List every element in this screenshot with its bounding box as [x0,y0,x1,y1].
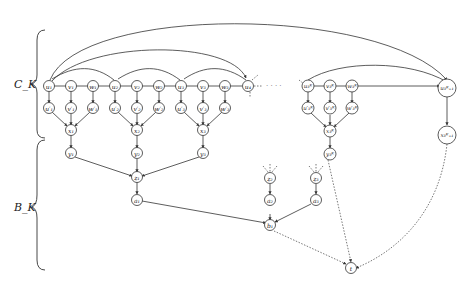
node-u1p: u′₁ [44,103,55,114]
svg-text:v′₂: v′₂ [133,105,141,112]
node-y3K: y₃ᴷ [324,148,336,160]
node-u3: u₃ [176,81,187,92]
svg-text:y₃ᴷ: y₃ᴷ [325,151,334,158]
node-v2p: v′₂ [132,103,143,114]
node-v1: v₁ [66,81,77,92]
svg-text:u′₃ᴷ: u′₃ᴷ [303,105,313,111]
node-x3K1: x₃ᴷ₊₁ [438,126,456,144]
node-z1: z₁ [132,172,143,183]
label-bk: B_K [13,201,37,214]
node-v3K: v₃ᴷ [324,80,336,92]
node-v1p: v′₁ [66,103,77,114]
svg-text:y₂: y₂ [133,150,140,158]
node-v3Kp: v′₃ᴷ [324,102,336,114]
svg-text:w′₃: w′₃ [221,105,230,112]
svg-text:x₃ᴷ: x₃ᴷ [326,128,334,134]
svg-text:u′₁: u′₁ [45,105,53,112]
node-w2p: w′₂ [154,103,165,114]
node-w1: w₁ [88,81,99,92]
node-t: t [346,263,357,274]
svg-text:v′₃: v′₃ [199,105,207,112]
node-z2: z₂ [265,173,276,184]
svg-text:z₁: z₁ [133,174,140,181]
svg-text:x₃ᴷ₊₁: x₃ᴷ₊₁ [440,132,453,138]
svg-text:w′₃ᴷ: w′₃ᴷ [347,105,358,111]
label-ck: C_K [14,78,37,91]
node-w1p: w′₁ [88,103,99,114]
node-y3: y₃ [198,148,209,159]
node-u2p: u′₂ [110,103,121,114]
node-x3: x₃ [198,125,209,136]
graph-diagram: C_K B_K · · · · [0,0,476,286]
svg-text:u₁: u₁ [46,83,52,90]
node-y2: y₂ [132,148,143,159]
node-w3: w₃ [220,81,231,92]
svg-text:x₃: x₃ [200,127,206,134]
node-v3p: v′₃ [198,103,209,114]
svg-text:w₁: w₁ [89,83,97,90]
svg-text:u₄: u₄ [245,83,252,90]
node-u4: u₄ [243,81,254,92]
svg-text:u₃ᴷ: u₃ᴷ [304,83,313,89]
svg-text:v₂: v₂ [134,83,140,90]
ellipsis: · · · · [266,82,282,90]
node-y1: y₁ [66,148,77,159]
svg-text:a₃: a₃ [313,197,320,204]
svg-text:b₁: b₁ [267,222,273,229]
svg-text:u′₃: u′₃ [177,105,185,112]
svg-text:z₃: z₃ [312,175,319,182]
node-w3K: w₃ᴷ [346,80,358,92]
node-a1: a₁ [132,195,143,206]
svg-text:y₃: y₃ [199,150,206,158]
svg-text:v′₃ᴷ: v′₃ᴷ [325,105,335,111]
svg-text:z₂: z₂ [266,175,273,182]
node-u1: u₁ [44,81,55,92]
svg-text:v₃ᴷ: v₃ᴷ [326,83,334,89]
node-u3Kp: u′₃ᴷ [302,102,314,114]
svg-text:u₃: u₃ [178,83,185,90]
node-x3K: x₃ᴷ [324,125,336,137]
node-u3p: u′₃ [176,103,187,114]
svg-text:v₃: v₃ [200,83,206,90]
node-w2: w₂ [154,81,165,92]
svg-text:w₃: w₃ [221,83,229,90]
node-w3Kp: w′₃ᴷ [346,102,358,114]
svg-text:v₁: v₁ [68,83,74,90]
node-x1: x₁ [66,125,77,136]
svg-text:y₁: y₁ [67,150,74,158]
svg-text:w₃ᴷ: w₃ᴷ [347,83,357,89]
svg-text:v′₁: v′₁ [67,105,74,112]
node-u3K1: u₃ᴷ₊₁ [438,79,456,97]
svg-text:u′₂: u′₂ [111,105,119,112]
svg-text:w′₂: w′₂ [155,105,164,112]
svg-text:x₁: x₁ [68,127,74,134]
svg-text:x₂: x₂ [134,127,140,134]
svg-text:a₂: a₂ [267,197,274,204]
svg-text:w′₁: w′₁ [89,105,98,112]
node-a3: a₃ [311,195,322,206]
svg-text:u₃ᴷ₊₁: u₃ᴷ₊₁ [440,85,453,91]
node-u3K: u₃ᴷ [302,80,314,92]
node-v2: v₂ [132,81,143,92]
node-u2: u₂ [110,81,121,92]
node-w3p: w′₃ [220,103,231,114]
node-v3: v₃ [198,81,209,92]
node-x2: x₂ [132,125,143,136]
node-b1: b₁ [265,220,276,231]
svg-text:a₁: a₁ [134,197,140,204]
svg-text:w₂: w₂ [155,83,163,90]
node-z3: z₃ [311,173,322,184]
node-a2: a₂ [265,195,276,206]
svg-text:u₂: u₂ [112,83,119,90]
